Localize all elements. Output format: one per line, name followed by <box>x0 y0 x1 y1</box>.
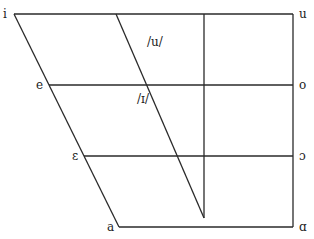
vowel-label-e: e <box>36 78 43 92</box>
vowel-chart: i e ε a u o ɔ ɑ /u/ /ɪ/ <box>0 0 314 239</box>
vowel-label-u: u <box>299 7 307 21</box>
vowel-label-script-a: ɑ <box>299 220 307 234</box>
phoneme-label-small-i: /ɪ/ <box>137 92 150 106</box>
vowel-label-open-o: ɔ <box>299 149 306 163</box>
vowel-label-a: a <box>107 220 114 234</box>
vowel-label-o: o <box>299 78 306 92</box>
phoneme-label-u: /u/ <box>147 35 164 49</box>
vowel-label-i: i <box>3 7 7 21</box>
vowel-label-epsilon: ε <box>72 149 78 163</box>
front-line <box>14 14 119 227</box>
